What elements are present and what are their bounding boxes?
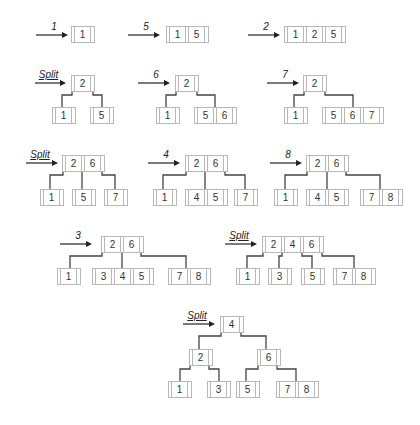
tree-node: 1 — [274, 189, 298, 206]
pointer-slot — [91, 27, 94, 42]
step-label: Split — [30, 149, 49, 160]
step-label: 1 — [51, 21, 57, 32]
tree-node: 78 — [276, 381, 319, 398]
node-key: 5 — [94, 108, 110, 123]
node-key: 6 — [261, 350, 277, 365]
node-key: 7 — [364, 190, 380, 205]
arrowhead-icon — [86, 241, 92, 247]
tree-node: 2 — [71, 75, 95, 92]
node-key: 7 — [172, 269, 188, 284]
pointer-slot — [224, 190, 227, 205]
pointer-slot — [224, 156, 227, 171]
node-key: 7 — [108, 190, 124, 205]
node-key: 1 — [240, 269, 256, 284]
pointer-slot — [304, 108, 307, 123]
step-label: Split — [229, 230, 248, 241]
node-key: 8 — [356, 269, 372, 284]
tree-edge — [225, 169, 245, 189]
tree-node: 1 — [57, 268, 81, 285]
arrowhead-icon — [293, 80, 299, 86]
pointer-slot — [380, 108, 383, 123]
tree-edge — [346, 169, 380, 189]
pointer-slot — [233, 108, 236, 123]
pointer-slot — [101, 156, 104, 171]
node-key: 6 — [85, 156, 101, 171]
tree-edge — [163, 169, 186, 189]
tree-node: 26 — [101, 236, 144, 253]
node-key: 4 — [189, 190, 205, 205]
tree-node: 2 — [175, 75, 199, 92]
arrowhead-icon — [164, 80, 170, 86]
step-label: 2 — [263, 21, 269, 32]
pointer-slot — [320, 237, 323, 252]
node-key: 5 — [240, 382, 256, 397]
tree-node: 125 — [284, 26, 346, 43]
pointer-slot — [345, 190, 348, 205]
tree-edge — [247, 250, 263, 268]
pointer-slot — [209, 350, 212, 365]
pointer-slot — [323, 76, 326, 91]
tree-node: 78 — [168, 268, 211, 285]
tree-node: 2 — [303, 75, 327, 92]
node-key: 4 — [224, 317, 240, 332]
tree-node: 1 — [71, 26, 95, 43]
node-key: 6 — [329, 156, 345, 171]
node-key: 2 — [189, 156, 205, 171]
node-key: 2 — [307, 27, 323, 42]
tree-node: 78 — [333, 268, 376, 285]
tree-node: 7 — [234, 189, 258, 206]
tree-node: 45 — [306, 189, 349, 206]
node-key: 2 — [307, 76, 323, 91]
tree-node: 246 — [262, 236, 324, 253]
arrowhead-icon — [62, 32, 68, 38]
tree-node: 6 — [257, 349, 281, 366]
tree-node: 45 — [185, 189, 228, 206]
node-key: 1 — [61, 269, 77, 284]
tree-node: 1 — [153, 189, 177, 206]
step-label: Split — [39, 69, 58, 80]
step-label: 8 — [285, 149, 291, 160]
tree-node: 5 — [236, 381, 260, 398]
pointer-slot — [294, 190, 297, 205]
tree-node: 1 — [156, 107, 180, 124]
tree-edge — [322, 250, 354, 268]
node-key: 1 — [44, 190, 60, 205]
pointer-slot — [277, 350, 280, 365]
node-key: 2 — [75, 76, 91, 91]
arrowhead-icon — [60, 80, 66, 86]
node-key: 6 — [208, 156, 224, 171]
node-key: 2 — [179, 76, 195, 91]
arrowhead-icon — [174, 160, 180, 166]
node-key: 8 — [191, 269, 207, 284]
pointer-slot — [315, 382, 318, 397]
pointer-slot — [345, 156, 348, 171]
node-key: 5 — [198, 108, 214, 123]
tree-node: 3 — [268, 268, 292, 285]
node-key: 5 — [208, 190, 224, 205]
pointer-slot — [399, 190, 402, 205]
tree-node: 5 — [72, 189, 96, 206]
tree-node: 567 — [322, 107, 384, 124]
node-key: 1 — [160, 108, 176, 123]
tree-node: 1 — [284, 107, 308, 124]
pointer-slot — [195, 76, 198, 91]
pointer-slot — [240, 317, 243, 332]
node-key: 1 — [288, 108, 304, 123]
node-key: 1 — [172, 382, 188, 397]
node-key: 8 — [299, 382, 315, 397]
node-key: 7 — [238, 190, 254, 205]
tree-node: 26 — [62, 155, 105, 172]
arrowhead-icon — [274, 32, 280, 38]
tree-node: 345 — [92, 268, 154, 285]
tree-node: 4 — [220, 316, 244, 333]
node-key: 7 — [280, 382, 296, 397]
tree-node: 15 — [166, 26, 209, 43]
node-key: 5 — [305, 269, 321, 284]
node-key: 7 — [364, 108, 380, 123]
pointer-slot — [372, 269, 375, 284]
node-key: 2 — [310, 156, 326, 171]
node-key: 5 — [329, 190, 345, 205]
node-key: 4 — [285, 237, 301, 252]
pointer-slot — [91, 76, 94, 91]
node-key: 1 — [278, 190, 294, 205]
